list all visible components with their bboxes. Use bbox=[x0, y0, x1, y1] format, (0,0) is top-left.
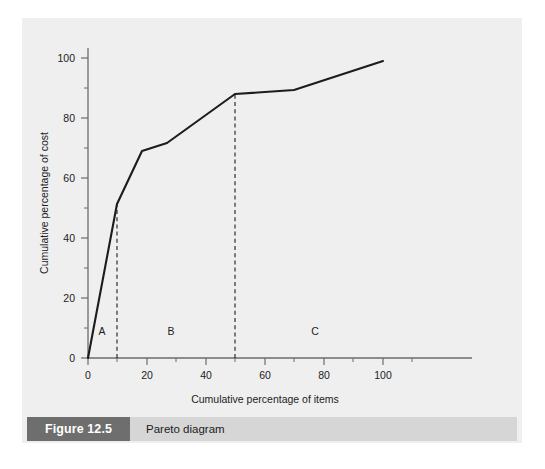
x-axis-title: Cumulative percentage of items bbox=[191, 393, 339, 405]
x-tick-label-60: 60 bbox=[259, 369, 271, 381]
y-axis-title: Cumulative percentage of cost bbox=[38, 132, 50, 274]
x-tick-label-100: 100 bbox=[374, 369, 392, 381]
pareto-chart: 0 20 40 60 80 100 bbox=[22, 18, 522, 413]
figure-caption-bar: Figure 12.5 Pareto diagram bbox=[27, 417, 517, 441]
y-axis-tick-labels: 0 20 40 60 80 100 bbox=[57, 52, 75, 364]
figure-caption-title: Pareto diagram bbox=[146, 423, 225, 435]
pareto-chart-svg: 0 20 40 60 80 100 bbox=[22, 18, 522, 413]
y-tick-label-0: 0 bbox=[69, 352, 75, 364]
figure-container: 0 20 40 60 80 100 bbox=[0, 0, 545, 469]
x-tick-label-0: 0 bbox=[85, 369, 91, 381]
y-tick-label-40: 40 bbox=[63, 232, 75, 244]
y-tick-label-100: 100 bbox=[57, 52, 75, 64]
y-tick-label-20: 20 bbox=[63, 292, 75, 304]
x-tick-label-20: 20 bbox=[141, 369, 153, 381]
x-tick-label-40: 40 bbox=[200, 369, 212, 381]
x-tick-label-80: 80 bbox=[318, 369, 330, 381]
figure-number-badge: Figure 12.5 bbox=[27, 417, 130, 441]
zone-label-c: C bbox=[311, 325, 319, 337]
zone-label-b: B bbox=[167, 325, 174, 337]
y-tick-label-80: 80 bbox=[63, 112, 75, 124]
x-axis-tick-labels: 0 20 40 60 80 100 bbox=[85, 369, 392, 381]
zone-label-a: A bbox=[98, 325, 105, 337]
figure-caption-title-container: Pareto diagram bbox=[130, 417, 517, 441]
y-tick-label-60: 60 bbox=[63, 172, 75, 184]
